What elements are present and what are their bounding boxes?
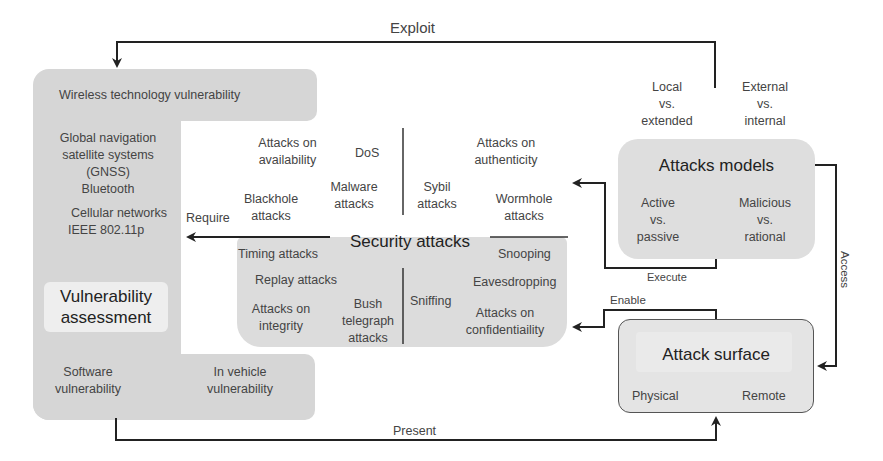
external-vs-2: vs. [735,97,795,112]
dos-label: DoS [355,146,379,161]
bush-3: attacks [338,331,398,346]
external-vs-1: External [735,80,795,95]
malware-1: Malware [323,180,385,195]
bush-2: telegraph [338,314,398,329]
malicious-vs-2: vs. [730,213,800,228]
wireless-item-gnss-3: (GNSS) [54,165,162,180]
wireless-item-gnss-1: Global navigation [54,131,162,146]
malware-2: attacks [323,197,385,212]
wireless-item-ieee: IEEE 802.11p [68,223,144,238]
active-vs-3: passive [628,230,688,245]
malicious-vs-1: Malicious [730,196,800,211]
physical-label: Physical [632,389,679,404]
active-vs-2: vs. [628,213,688,228]
integrity-label-2: integrity [245,319,317,334]
blackhole-2: attacks [240,209,302,224]
wormhole-1: Wormhole [490,192,558,207]
timing-attacks: Timing attacks [238,247,318,262]
availability-label-1: Attacks on [250,136,325,151]
local-vs-1: Local [637,80,697,95]
bush-1: Bush [338,297,398,312]
sniffing: Sniffing [410,294,451,309]
confidentiality-label-2: confidentiaility [455,323,555,338]
sybil-2: attacks [412,197,462,212]
active-vs-1: Active [628,196,688,211]
software-vulnerability-1: Software [48,365,128,380]
remote-label: Remote [742,389,786,404]
integrity-label-1: Attacks on [245,302,317,317]
blackhole-1: Blackhole [240,192,302,207]
exploit-label: Exploit [390,20,435,35]
replay-attacks: Replay attacks [255,273,337,288]
vulnerability-assessment-title-1: Vulnerability [44,287,168,307]
sybil-1: Sybil [412,180,462,195]
vulnerability-assessment-title-2: assessment [44,308,168,328]
external-vs-3: internal [735,114,795,129]
access-label: Access [837,251,852,288]
require-label: Require [186,211,230,226]
present-label: Present [393,424,436,439]
snooping: Snooping [498,247,551,262]
attack-surface-title: Attack surface [618,345,814,365]
security-attacks-title: Security attacks [330,232,490,252]
vehicle-vulnerability-1: In vehicle [200,365,280,380]
wireless-item-gnss-2: satellite systems [54,148,162,163]
authenticity-label-1: Attacks on [465,136,547,151]
wireless-item-bluetooth: Bluetooth [54,182,162,197]
wormhole-2: attacks [490,209,558,224]
local-vs-2: vs. [637,97,697,112]
attacks-models-title: Attacks models [618,156,815,176]
wireless-item-cellular: Cellular networks [64,206,174,221]
eavesdropping: Eavesdropping [473,275,556,290]
confidentiality-label-1: Attacks on [455,306,555,321]
authenticity-label-2: authenticity [465,153,547,168]
malicious-vs-3: rational [730,230,800,245]
availability-label-2: availability [250,153,325,168]
vehicle-vulnerability-2: vulnerability [200,382,280,397]
execute-label: Execute [647,270,687,285]
wireless-header: Wireless technology vulnerability [59,88,240,103]
software-vulnerability-2: vulnerability [48,382,128,397]
enable-label: Enable [610,293,646,308]
local-vs-3: extended [637,114,697,129]
